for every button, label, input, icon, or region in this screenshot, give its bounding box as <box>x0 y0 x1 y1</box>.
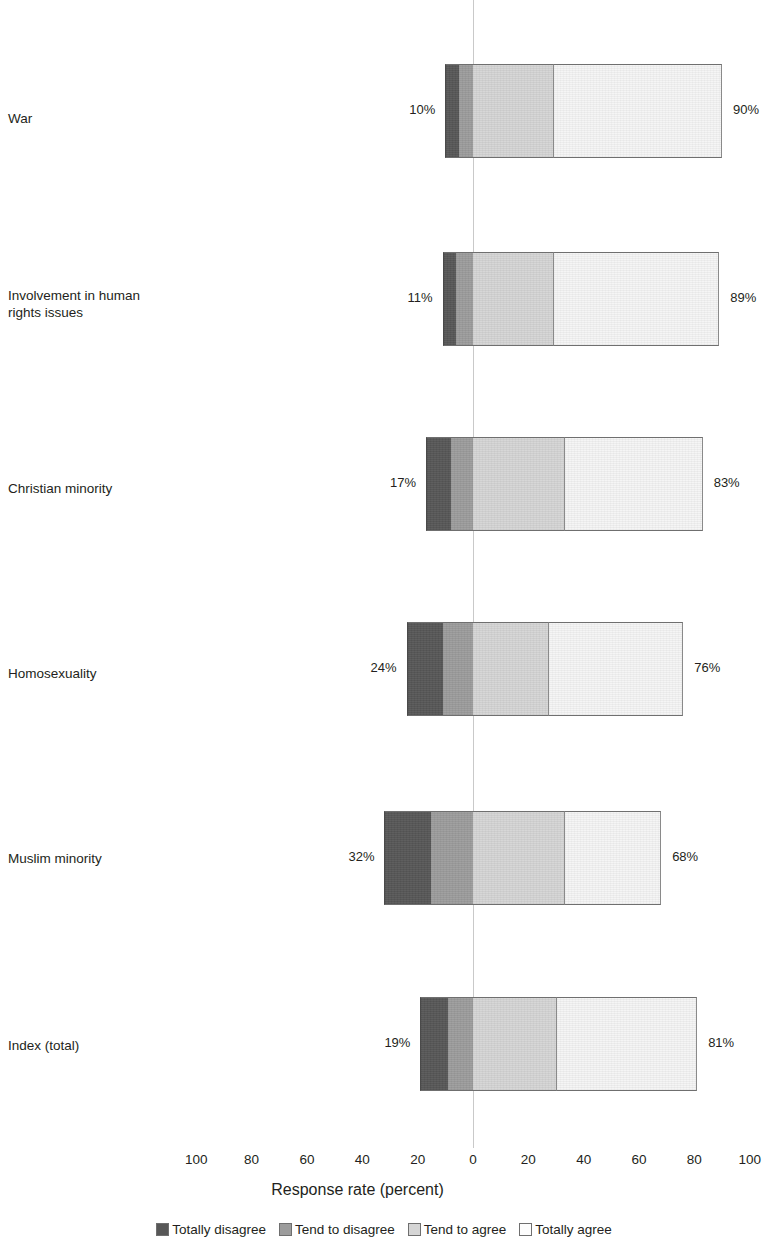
bar-segment-tend-to-disagree <box>443 622 473 716</box>
zero-axis-line <box>473 0 474 1148</box>
category-label: Involvement in human rights issues <box>8 287 140 321</box>
bar-segment-tend-to-disagree <box>451 437 473 531</box>
x-axis-tick-label: 60 <box>619 1152 659 1167</box>
stacked-bar <box>384 811 661 905</box>
bar-segment-tend-to-disagree <box>459 64 473 158</box>
legend-swatch-icon <box>279 1223 292 1236</box>
agree-total-label: 83% <box>714 475 762 490</box>
bar-segment-totally-disagree <box>445 64 459 158</box>
x-axis-tick-label: 20 <box>398 1152 438 1167</box>
chart-legend: Totally disagreeTend to disagreeTend to … <box>0 1222 768 1237</box>
x-axis-tick-label: 80 <box>232 1152 272 1167</box>
bar-segment-tend-to-agree <box>473 252 553 346</box>
legend-item: Totally disagree <box>156 1222 266 1237</box>
bar-segment-totally-disagree <box>407 622 443 716</box>
x-axis-tick-label: 20 <box>508 1152 548 1167</box>
bar-segment-tend-to-agree <box>473 811 564 905</box>
legend-item: Totally agree <box>519 1222 612 1237</box>
bar-segment-totally-agree <box>548 622 684 716</box>
disagree-total-label: 24% <box>349 660 397 675</box>
disagree-total-label: 11% <box>385 290 433 305</box>
agree-total-label: 68% <box>672 849 720 864</box>
category-label: Christian minority <box>8 480 112 497</box>
bar-segment-tend-to-disagree <box>456 252 473 346</box>
category-label: Homosexuality <box>8 665 97 682</box>
bar-segment-totally-agree <box>564 437 702 531</box>
bar-segment-tend-to-disagree <box>448 997 473 1091</box>
bar-segment-tend-to-agree <box>473 997 556 1091</box>
legend-label: Tend to disagree <box>295 1222 395 1237</box>
disagree-total-label: 10% <box>387 102 435 117</box>
disagree-total-label: 32% <box>326 849 374 864</box>
legend-label: Totally disagree <box>172 1222 266 1237</box>
legend-label: Tend to agree <box>424 1222 507 1237</box>
legend-swatch-icon <box>519 1223 532 1236</box>
legend-item: Tend to disagree <box>279 1222 395 1237</box>
legend-swatch-icon <box>156 1223 169 1236</box>
disagree-total-label: 17% <box>368 475 416 490</box>
legend-label: Totally agree <box>535 1222 612 1237</box>
bar-segment-tend-to-disagree <box>431 811 473 905</box>
x-axis: 10080604020020406080100 <box>0 1152 768 1182</box>
x-axis-tick-label: 40 <box>564 1152 604 1167</box>
category-label: War <box>8 110 32 127</box>
bar-segment-totally-agree <box>553 252 719 346</box>
disagree-total-label: 19% <box>362 1035 410 1050</box>
x-axis-tick-label: 100 <box>176 1152 216 1167</box>
agree-total-label: 76% <box>694 660 742 675</box>
stacked-bar <box>420 997 697 1091</box>
bar-segment-totally-disagree <box>443 252 457 346</box>
x-axis-title: Response rate (percent) <box>0 1181 768 1199</box>
bar-segment-totally-disagree <box>384 811 431 905</box>
diverging-stacked-bar-chart: War10%90%Involvement in human rights iss… <box>0 0 768 1249</box>
legend-swatch-icon <box>408 1223 421 1236</box>
x-axis-tick-label: 40 <box>342 1152 382 1167</box>
x-axis-tick-label: 80 <box>674 1152 714 1167</box>
stacked-bar <box>445 64 722 158</box>
legend-item: Tend to agree <box>408 1222 507 1237</box>
bar-segment-tend-to-agree <box>473 622 548 716</box>
bar-segment-totally-agree <box>556 997 697 1091</box>
bar-segment-tend-to-agree <box>473 64 553 158</box>
agree-total-label: 81% <box>708 1035 756 1050</box>
bar-segment-totally-disagree <box>420 997 448 1091</box>
bar-segment-totally-agree <box>553 64 722 158</box>
x-axis-tick-label: 100 <box>730 1152 768 1167</box>
stacked-bar <box>443 252 720 346</box>
category-label: Index (total) <box>8 1037 79 1054</box>
agree-total-label: 90% <box>733 102 768 117</box>
agree-total-label: 89% <box>730 290 768 305</box>
category-label: Muslim minority <box>8 850 102 867</box>
stacked-bar <box>407 622 684 716</box>
bar-segment-totally-disagree <box>426 437 451 531</box>
bar-segment-totally-agree <box>564 811 661 905</box>
x-axis-title-text: Response rate (percent) <box>271 1181 444 1199</box>
stacked-bar <box>426 437 703 531</box>
x-axis-tick-label: 0 <box>453 1152 493 1167</box>
x-axis-tick-label: 60 <box>287 1152 327 1167</box>
bar-segment-tend-to-agree <box>473 437 564 531</box>
